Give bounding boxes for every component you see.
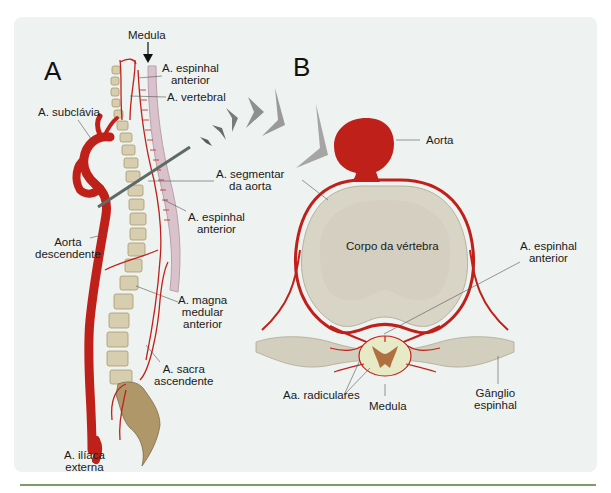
label-vertebral: A. vertebral [167, 91, 226, 103]
vertebral-column [107, 66, 146, 384]
label-iliaca-externa: A. ilíaca externa [64, 449, 105, 473]
label-aorta: Aorta [426, 134, 454, 146]
bottom-rule [20, 484, 596, 486]
panel-label-a: A [44, 56, 61, 87]
label-subclavia: A. subclávia [38, 106, 100, 118]
label-medula-b: Medula [369, 400, 407, 412]
label-magna-medular: A. magna medular anterior [178, 294, 227, 330]
label-corpo-vertebra: Corpo da vértebra [346, 240, 439, 252]
label-sacra-ascendente: A. sacra ascendente [154, 363, 213, 387]
right-ganglion-shape [394, 337, 514, 367]
aorta-vessel [77, 116, 117, 460]
label-espinhal-anterior-mid: A. espinhal anterior [188, 211, 245, 235]
label-espinhal-anterior-b: A. espinhal anterior [520, 240, 577, 264]
label-medula-top: Medula [128, 29, 166, 41]
sacrum-shape [116, 382, 160, 466]
label-radiculares: Aa. radiculares [283, 389, 360, 401]
label-aorta-descendente: Aorta descendente [35, 236, 101, 260]
left-ganglion-shape [256, 337, 376, 367]
label-espinhal-anterior-top: A. espinhal anterior [162, 62, 219, 86]
label-ganglio-espinhal: Gânglio espinhal [474, 387, 517, 411]
panel-label-b: B [293, 52, 310, 83]
aorta-cross-section [334, 118, 394, 182]
medula-arrow-icon [143, 54, 153, 63]
label-segmentar: A. segmentar da aorta [216, 168, 284, 192]
section-plane-line [98, 147, 190, 207]
